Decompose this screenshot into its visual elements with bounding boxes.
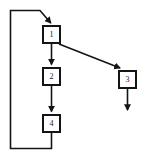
node-box-2[interactable]: 2: [42, 67, 61, 86]
node-box-4[interactable]: 4: [42, 114, 61, 133]
node-label-3: 3: [126, 76, 130, 84]
node-label-1: 1: [50, 31, 54, 39]
flowchart-diagram: 1 2 4 3: [0, 0, 145, 159]
edge-node1-to-node3: [59, 44, 120, 68]
node-label-4: 4: [50, 120, 54, 128]
node-box-3[interactable]: 3: [118, 70, 137, 89]
node-label-2: 2: [50, 73, 54, 81]
node-box-1[interactable]: 1: [42, 25, 61, 44]
